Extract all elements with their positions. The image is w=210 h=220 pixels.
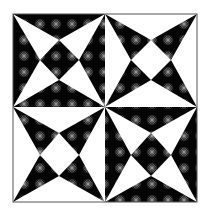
block-bottom-right xyxy=(105,107,197,202)
block-top-left xyxy=(13,14,105,107)
quilt-image xyxy=(0,0,210,220)
block-top-right xyxy=(105,14,197,107)
block-bottom-left xyxy=(13,107,105,202)
